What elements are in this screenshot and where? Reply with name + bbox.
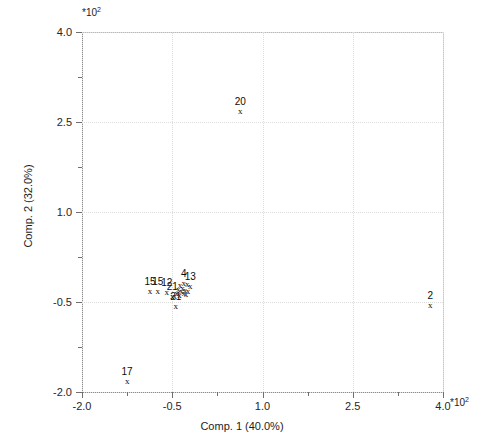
- y-axis-tick-label-wrap: -2.0: [26, 387, 72, 398]
- data-point-marker: x: [168, 292, 182, 301]
- gridline-horizontal: [82, 302, 443, 303]
- y-axis-tick-label-wrap: 4.0: [26, 27, 72, 38]
- data-point-marker: x: [120, 377, 134, 386]
- y-axis-tick: [76, 122, 82, 123]
- x-axis-tick-label: 1.0: [240, 400, 286, 412]
- y-axis-tick-label: 2.5: [28, 117, 72, 128]
- x-axis-tick: [263, 392, 264, 398]
- x-axis-title: Comp. 1 (40.0%): [0, 420, 484, 432]
- x-axis-tick: [353, 392, 354, 398]
- y-axis-tick: [76, 302, 82, 303]
- gridline-vertical: [443, 32, 444, 392]
- gridline-horizontal: [82, 122, 443, 123]
- y-axis-tick-minor: [78, 347, 82, 348]
- y-axis-multiplier: *102: [82, 6, 101, 18]
- x-axis-tick-minor: [308, 392, 309, 396]
- x-axis-tick-label: 4.0: [420, 400, 466, 412]
- y-axis-tick-minor: [78, 257, 82, 258]
- y-axis-tick-label: 4.0: [28, 27, 72, 38]
- x-axis-tick-label: 2.5: [330, 400, 376, 412]
- x-axis-tick-minor: [398, 392, 399, 396]
- y-axis-tick-label: -0.5: [28, 297, 72, 308]
- x-axis-tick-label: -0.5: [149, 400, 195, 412]
- y-axis-tick-label-wrap: -0.5: [26, 297, 72, 308]
- x-axis-tick: [443, 392, 444, 398]
- y-axis-tick-minor: [78, 77, 82, 78]
- y-axis-tick: [76, 212, 82, 213]
- y-axis-tick: [76, 392, 82, 393]
- gridline-horizontal: [82, 32, 443, 33]
- x-axis-tick-minor: [127, 392, 128, 396]
- y-axis-tick-minor: [78, 167, 82, 168]
- y-axis-tick-label: -2.0: [28, 387, 72, 398]
- x-axis-tick: [172, 392, 173, 398]
- x-axis-tick: [82, 392, 83, 398]
- x-axis-tick-minor: [217, 392, 218, 396]
- scatter-plot-figure: *102 *102 -2.0-0.51.02.54.04.02.51.0-0.5…: [0, 0, 484, 440]
- data-point-marker: x: [233, 107, 247, 116]
- gridline-horizontal: [82, 212, 443, 213]
- y-axis-tick: [76, 32, 82, 33]
- data-point-marker: x: [423, 301, 437, 310]
- y-axis-title: Comp. 2 (32.0%): [22, 126, 34, 286]
- y-axis-tick-label: 1.0: [28, 207, 72, 218]
- data-point-marker: x: [169, 302, 183, 311]
- x-axis-tick-label: -2.0: [59, 400, 105, 412]
